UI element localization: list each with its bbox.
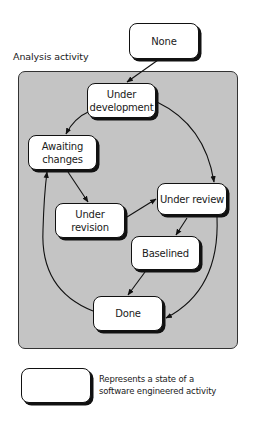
state-label: Under development xyxy=(90,88,154,114)
state-label: Baselined xyxy=(142,247,189,260)
state-under-revision: Under revision xyxy=(55,203,125,238)
state-done: Done xyxy=(93,296,163,331)
state-label: Done xyxy=(115,307,141,320)
state-label: Awaiting changes xyxy=(42,140,83,166)
state-baselined: Baselined xyxy=(131,236,200,270)
state-none: None xyxy=(129,23,199,59)
activity-container-label: Analysis activity xyxy=(13,51,88,62)
legend-description: Represents a state of a software enginee… xyxy=(99,374,216,397)
state-awaiting-changes: Awaiting changes xyxy=(28,135,97,170)
legend-text: Represents a state of a software enginee… xyxy=(99,374,216,397)
state-label: None xyxy=(151,35,176,48)
legend-state-symbol xyxy=(21,368,91,403)
state-under-development: Under development xyxy=(87,83,156,118)
state-label: Under revision xyxy=(71,208,109,234)
state-label: Under review xyxy=(160,193,224,206)
state-under-review: Under review xyxy=(157,183,227,215)
